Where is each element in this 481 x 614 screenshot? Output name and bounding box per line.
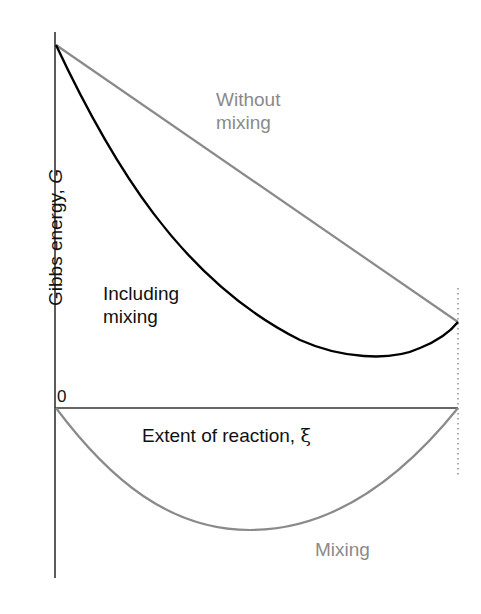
y-axis-symbol: G — [45, 169, 66, 184]
x-axis-label: Extent of reaction, ξ — [142, 424, 311, 447]
including-mixing-label: Including mixing — [103, 282, 179, 328]
x-axis-label-text: Extent of reaction, — [142, 425, 300, 446]
without-mixing-label: Without mixing — [216, 88, 280, 134]
origin-label: 0 — [57, 385, 66, 408]
without-mixing-line — [56, 45, 458, 322]
y-axis-label: Gibbs energy, G — [44, 106, 67, 306]
without-mixing-label-line2: mixing — [216, 111, 280, 134]
x-axis-symbol: ξ — [300, 424, 310, 446]
y-axis-label-text: Gibbs energy, — [45, 184, 66, 306]
including-mixing-label-line1: Including — [103, 282, 179, 305]
including-mixing-label-line2: mixing — [103, 305, 179, 328]
without-mixing-label-line1: Without — [216, 88, 280, 111]
mixing-label: Mixing — [315, 538, 370, 561]
